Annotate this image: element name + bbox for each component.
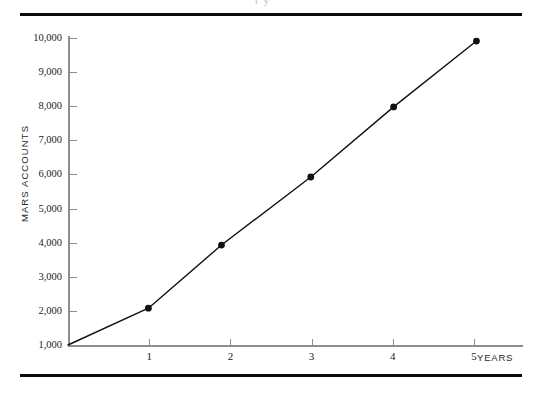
series-data-point — [218, 242, 225, 249]
chart-figure: r y 1,0002,0003,0004,0005,0006,0007,0008… — [0, 0, 542, 393]
series-line-mars-accounts — [68, 41, 476, 345]
plot-area: 1,0002,0003,0004,0005,0006,0007,0008,000… — [0, 0, 542, 393]
series-data-point — [473, 38, 480, 45]
series-layer — [0, 0, 542, 393]
series-data-point — [307, 174, 314, 181]
series-data-point — [390, 104, 397, 111]
series-data-point — [145, 305, 152, 312]
